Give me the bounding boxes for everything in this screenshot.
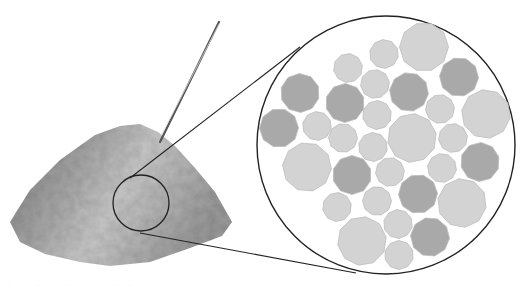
grain-light — [303, 112, 331, 141]
grain-light — [363, 101, 391, 130]
pile-body — [10, 124, 232, 266]
grain-dark — [440, 58, 479, 96]
grain-dark — [411, 218, 450, 256]
grain-light — [384, 210, 412, 239]
grain-dark — [260, 109, 299, 146]
grain-light — [370, 40, 398, 69]
figure-canvas — [0, 0, 524, 290]
probe-needle — [160, 22, 219, 142]
grain-dark — [334, 156, 371, 195]
grain-light — [376, 158, 405, 186]
grain-light — [400, 24, 449, 71]
grain-light — [323, 193, 351, 222]
grain-light — [359, 133, 387, 162]
grain-light — [385, 241, 413, 270]
grain-dark — [326, 84, 363, 123]
grain-dark — [399, 175, 438, 212]
grain-light — [361, 70, 390, 98]
caption-remnant: · · · · · · · · · — [8, 282, 248, 288]
grain-dark — [281, 74, 318, 113]
grain-dark — [461, 143, 499, 182]
probe-needle-highlight — [161, 23, 220, 136]
sand-pile — [10, 124, 232, 266]
grain-light — [363, 187, 392, 215]
grain-light — [329, 124, 358, 152]
grain-light — [426, 95, 455, 123]
